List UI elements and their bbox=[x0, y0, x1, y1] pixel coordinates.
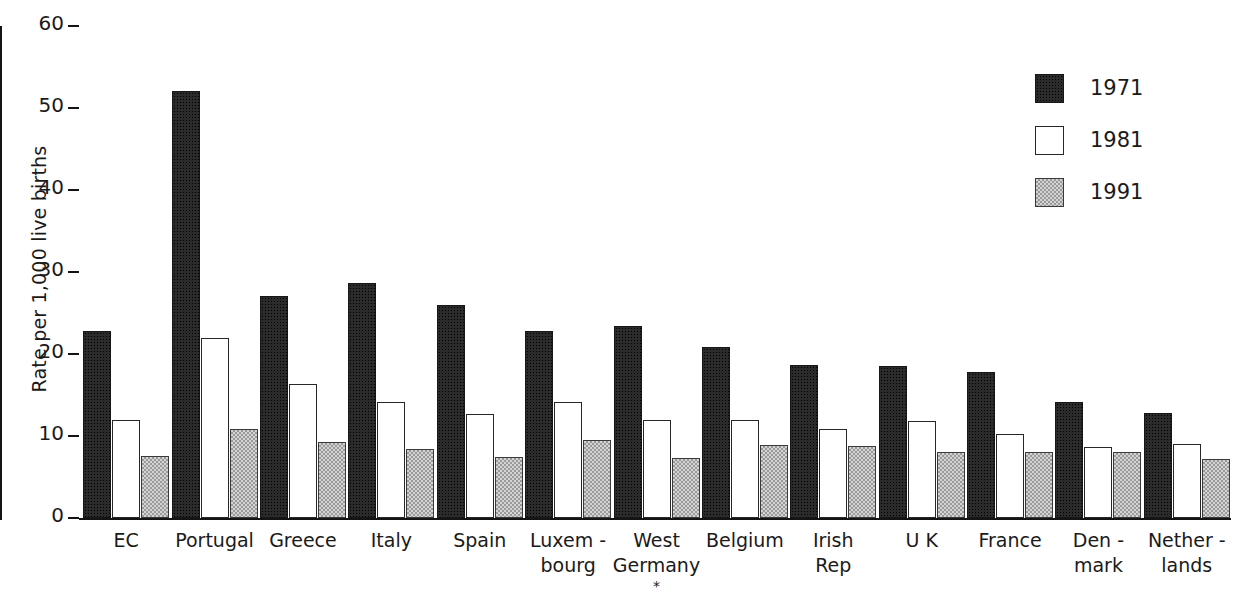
y-tick-50 bbox=[68, 107, 79, 109]
x-axis-label: Den - mark bbox=[1054, 528, 1142, 578]
bar bbox=[967, 372, 995, 518]
x-axis-label: Greece bbox=[259, 528, 347, 553]
bar bbox=[1144, 413, 1172, 518]
x-axis-label: France bbox=[966, 528, 1054, 553]
y-tick-label-10: 10 bbox=[4, 423, 64, 443]
bar bbox=[289, 384, 317, 518]
x-axis-label: West Germany bbox=[612, 528, 700, 578]
bar bbox=[643, 420, 671, 518]
bar bbox=[525, 331, 553, 518]
bar bbox=[1055, 402, 1083, 518]
bar bbox=[466, 414, 494, 518]
y-tick-20 bbox=[68, 353, 79, 355]
bar bbox=[260, 296, 288, 518]
legend-row-1971: 1971 bbox=[1035, 62, 1143, 114]
legend-row-1991: 1991 bbox=[1035, 166, 1143, 218]
bar bbox=[908, 421, 936, 518]
bar bbox=[230, 429, 258, 518]
bar bbox=[879, 366, 907, 518]
legend-swatch-1991 bbox=[1035, 178, 1064, 207]
y-tick-label-60: 60 bbox=[4, 13, 64, 33]
bar bbox=[112, 420, 140, 518]
legend: 1971 1981 1991 bbox=[1035, 62, 1143, 218]
x-axis-label: Spain bbox=[436, 528, 524, 553]
y-tick-label-50: 50 bbox=[4, 95, 64, 115]
bar bbox=[819, 429, 847, 518]
bar-chart: Rate per 1,000 live births 0102030405060… bbox=[0, 0, 1244, 596]
bar bbox=[377, 402, 405, 518]
bar bbox=[348, 283, 376, 518]
bar bbox=[318, 442, 346, 518]
y-tick-label-30: 30 bbox=[4, 259, 64, 279]
legend-row-1981: 1981 bbox=[1035, 114, 1143, 166]
bar bbox=[406, 449, 434, 518]
bar bbox=[1202, 459, 1230, 518]
bar bbox=[141, 456, 169, 518]
bar bbox=[702, 347, 730, 518]
x-axis-line bbox=[79, 518, 1231, 520]
footnote-asterisk: * bbox=[612, 578, 700, 594]
legend-label-1991: 1991 bbox=[1090, 180, 1143, 204]
y-tick-0 bbox=[68, 517, 79, 519]
y-axis-line bbox=[0, 26, 2, 520]
y-tick-30 bbox=[68, 271, 79, 273]
bar bbox=[937, 452, 965, 518]
y-tick-label-0: 0 bbox=[4, 505, 64, 525]
bar bbox=[1113, 452, 1141, 518]
bar bbox=[848, 446, 876, 518]
x-axis-label: Portugal bbox=[170, 528, 258, 553]
x-axis-label: U K bbox=[877, 528, 965, 553]
bar bbox=[672, 458, 700, 518]
x-axis-label: Belgium bbox=[701, 528, 789, 553]
bar bbox=[554, 402, 582, 518]
x-axis-label: Irish Rep bbox=[789, 528, 877, 578]
bar bbox=[437, 305, 465, 518]
bar bbox=[1025, 452, 1053, 518]
bar bbox=[83, 331, 111, 518]
y-tick-60 bbox=[68, 25, 79, 27]
x-axis-label: Italy bbox=[347, 528, 435, 553]
bar bbox=[1173, 444, 1201, 518]
legend-label-1981: 1981 bbox=[1090, 128, 1143, 152]
y-tick-label-40: 40 bbox=[4, 177, 64, 197]
legend-label-1971: 1971 bbox=[1090, 76, 1143, 100]
x-axis-label: Nether - lands bbox=[1143, 528, 1231, 578]
bar bbox=[996, 434, 1024, 518]
y-tick-10 bbox=[68, 435, 79, 437]
legend-swatch-1981 bbox=[1035, 126, 1064, 155]
bar bbox=[201, 338, 229, 518]
bar bbox=[760, 445, 788, 518]
bar bbox=[172, 91, 200, 518]
legend-swatch-1971 bbox=[1035, 74, 1064, 103]
x-axis-label: Luxem - bourg bbox=[524, 528, 612, 578]
bar bbox=[495, 457, 523, 519]
y-tick-40 bbox=[68, 189, 79, 191]
y-tick-label-20: 20 bbox=[4, 341, 64, 361]
bar bbox=[790, 365, 818, 518]
bar bbox=[583, 440, 611, 518]
bar bbox=[1084, 447, 1112, 518]
bar bbox=[731, 420, 759, 518]
bar bbox=[614, 326, 642, 518]
x-axis-label: EC bbox=[82, 528, 170, 553]
